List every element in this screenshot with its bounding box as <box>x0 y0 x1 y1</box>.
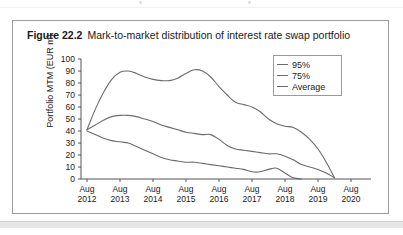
series-line-average <box>87 131 302 179</box>
x-tick-month: Aug <box>277 184 292 194</box>
x-tick-month: Aug <box>310 184 325 194</box>
legend-line-icon <box>277 75 288 76</box>
y-tick-label: 10 <box>53 162 75 172</box>
x-tick-month: Aug <box>211 184 226 194</box>
x-tick-year: 2015 <box>177 194 196 204</box>
page-canvas: Figure 22.2Mark-to-market distribution o… <box>0 0 403 235</box>
legend-line-icon <box>277 86 288 87</box>
y-tick-label: 80 <box>53 78 75 88</box>
legend-label: 75% <box>292 71 310 81</box>
y-tick-label: 0 <box>53 174 75 184</box>
x-tick-year: 2016 <box>210 194 229 204</box>
x-tick-year: 2018 <box>276 194 295 204</box>
scan-artifact-left <box>139 1 142 4</box>
y-tick-label: 100 <box>53 54 75 64</box>
legend-line-icon <box>277 64 288 65</box>
x-tick-year: 2013 <box>111 194 130 204</box>
chart-legend: 95% 75% Average <box>273 55 342 96</box>
legend-label: 95% <box>292 60 310 70</box>
x-tick-label: Aug2020 <box>331 184 371 204</box>
y-tick-label: 70 <box>53 90 75 100</box>
x-tick-month: Aug <box>145 184 160 194</box>
x-tick-month: Aug <box>112 184 127 194</box>
y-tick-label: 60 <box>53 102 75 112</box>
series-line-75pct <box>87 115 335 178</box>
x-tick-month: Aug <box>79 184 94 194</box>
y-tick-label: 40 <box>53 126 75 136</box>
x-tick-year: 2014 <box>144 194 163 204</box>
legend-item-75: 75% <box>277 70 337 81</box>
legend-item-95: 95% <box>277 59 337 70</box>
x-tick-year: 2017 <box>243 194 262 204</box>
legend-label: Average <box>292 82 325 92</box>
x-tick-month: Aug <box>178 184 193 194</box>
y-tick-label: 30 <box>53 138 75 148</box>
x-tick-month: Aug <box>244 184 259 194</box>
scan-artifact-right <box>248 1 251 4</box>
y-tick-label: 20 <box>53 150 75 160</box>
chart-plot-area: Portfolio MTM (EUR m) 010203040506070809… <box>13 21 390 215</box>
x-tick-year: 2019 <box>309 194 328 204</box>
footer-band <box>0 222 403 228</box>
y-tick-label: 50 <box>53 114 75 124</box>
figure-container: Figure 22.2Mark-to-market distribution o… <box>12 20 389 214</box>
legend-item-average: Average <box>277 81 337 92</box>
y-tick-label: 90 <box>53 66 75 76</box>
x-tick-month: Aug <box>343 184 358 194</box>
top-page-rule <box>0 7 403 8</box>
x-tick-year: 2020 <box>342 194 361 204</box>
x-tick-year: 2012 <box>78 194 97 204</box>
